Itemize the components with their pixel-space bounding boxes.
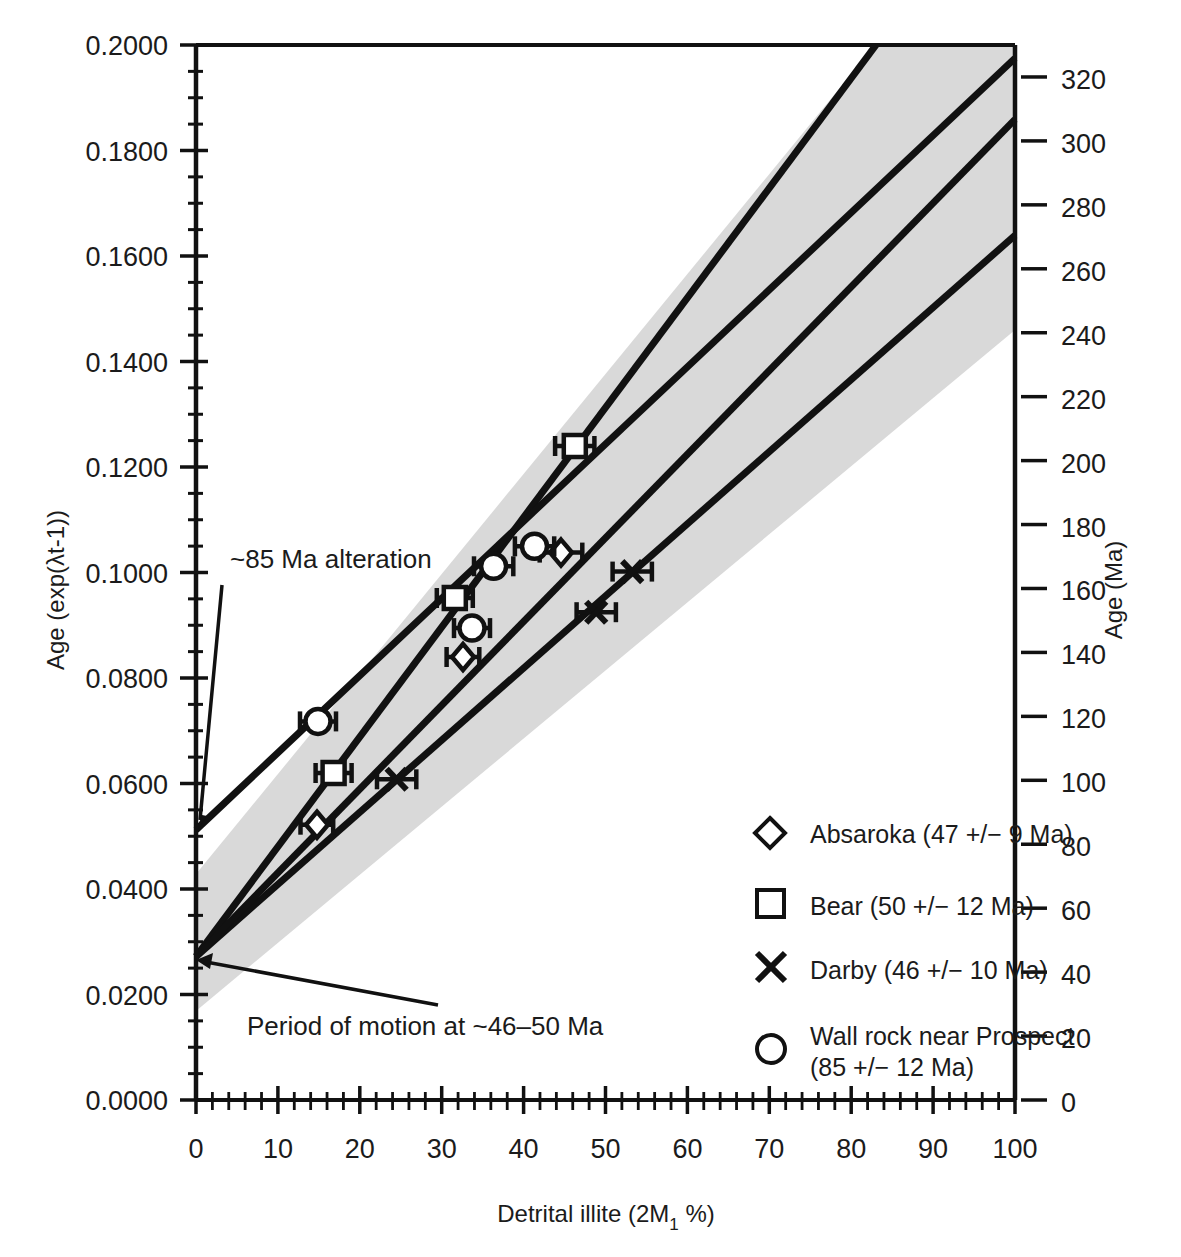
y-tick-label: 0.0600 (85, 770, 168, 800)
y-right-tick-label: 100 (1061, 768, 1106, 798)
x-tick-label: 0 (188, 1134, 203, 1164)
x-tick-label: 20 (345, 1134, 375, 1164)
legend-label-darby: Darby (46 +/− 10 Ma) (810, 956, 1048, 984)
legend-label-bear: Bear (50 +/− 12 Ma) (810, 892, 1034, 920)
y-tick-label: 0.0400 (85, 875, 168, 905)
y-tick-label: 0.0800 (85, 664, 168, 694)
annotation-period-text: Period of motion at ~46–50 Ma (247, 1011, 604, 1041)
y-right-tick-label: 320 (1061, 65, 1106, 95)
y-right-tick-label: 300 (1061, 129, 1106, 159)
x-tick-label: 100 (992, 1134, 1037, 1164)
y-tick-label: 0.1400 (85, 348, 168, 378)
y-right-tick-label: 40 (1061, 960, 1091, 990)
x-tick-label: 50 (590, 1134, 620, 1164)
isotope-age-scatter-chart: 0.00000.02000.04000.06000.08000.10000.12… (0, 0, 1181, 1257)
y-tick-label: 0.1800 (85, 137, 168, 167)
x-tick-label: 60 (672, 1134, 702, 1164)
x-tick-label: 30 (427, 1134, 457, 1164)
y-tick-label: 0.1600 (85, 242, 168, 272)
y-axis-title-left: Age (exp(λt-1)) (42, 510, 69, 670)
x-tick-label: 10 (263, 1134, 293, 1164)
y-right-tick-label: 180 (1061, 513, 1106, 543)
y-tick-label: 0.2000 (85, 31, 168, 61)
y-right-tick-label: 220 (1061, 385, 1106, 415)
point-bear-2 (437, 587, 473, 609)
y-right-tick-label: 280 (1061, 193, 1106, 223)
y-right-tick-label: 260 (1061, 257, 1106, 287)
y-right-tick-label: 0 (1061, 1088, 1076, 1118)
x-axis-title-tail: %) (679, 1200, 715, 1227)
y-right-tick-label: 200 (1061, 449, 1106, 479)
legend-label-absaroka: Absaroka (47 +/− 9 Ma) (810, 820, 1073, 848)
y-tick-label: 0.1000 (85, 559, 168, 589)
square-icon (757, 890, 784, 917)
x-tick-label: 70 (754, 1134, 784, 1164)
x-axis-title-sub: 1 (669, 1215, 678, 1234)
point-bear-1 (316, 762, 352, 784)
y-tick-label: 0.1200 (85, 453, 168, 483)
x-tick-label: 40 (509, 1134, 539, 1164)
y-tick-label: 0.0200 (85, 981, 168, 1011)
legend-label-wallrock: Wall rock near Prospect (810, 1022, 1074, 1050)
y-right-tick-label: 120 (1061, 704, 1106, 734)
y-right-tick-label: 140 (1061, 640, 1106, 670)
legend-label-wallrock-line2: (85 +/− 12 Ma) (810, 1053, 974, 1081)
x-tick-label: 80 (836, 1134, 866, 1164)
y-axis-title-right: Age (Ma) (1100, 541, 1127, 640)
y-tick-label: 0.0000 (85, 1086, 168, 1116)
chart-figure: 0.00000.02000.04000.06000.08000.10000.12… (0, 0, 1181, 1257)
y-right-tick-label: 60 (1061, 896, 1091, 926)
y-right-tick-label: 240 (1061, 321, 1106, 351)
x-tick-label: 90 (918, 1134, 948, 1164)
annotation-alteration-text: ~85 Ma alteration (230, 544, 432, 574)
circle-icon (757, 1035, 785, 1063)
x-axis-title-main: Detrital illite (2M (497, 1200, 669, 1227)
